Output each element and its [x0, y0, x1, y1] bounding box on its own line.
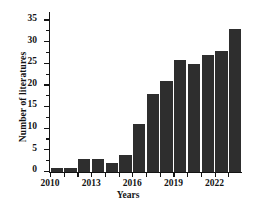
y-tick: 25 — [44, 63, 50, 64]
y-tick-label: 25 — [28, 56, 38, 66]
bar — [92, 159, 104, 172]
y-tick-label: 5 — [32, 143, 37, 153]
y-axis-title: Number of literatures — [18, 27, 28, 167]
y-tick: 10 — [44, 128, 50, 129]
x-axis-title: Years — [0, 190, 256, 200]
x-tick — [91, 172, 92, 177]
bar-chart: Number of literatures 05101520253035 201… — [0, 0, 256, 214]
x-tick — [173, 172, 174, 177]
x-tick — [64, 172, 65, 177]
x-tick-label: 2019 — [164, 178, 183, 188]
y-tick-label: 0 — [32, 164, 37, 174]
x-tick — [228, 172, 229, 177]
y-minor-tick — [46, 138, 50, 139]
y-minor-tick — [46, 30, 50, 31]
bar — [64, 168, 76, 172]
plot-area: 05101520253035 20102013201620192022 — [50, 12, 242, 172]
y-tick-label: 35 — [28, 13, 38, 23]
y-tick-label: 30 — [28, 35, 38, 45]
y-tick: 35 — [44, 19, 50, 20]
y-minor-tick — [46, 160, 50, 161]
x-tick-label: 2013 — [82, 178, 101, 188]
bar — [202, 55, 214, 172]
bar — [106, 163, 118, 172]
y-minor-tick — [46, 95, 50, 96]
bar — [147, 94, 159, 172]
x-tick — [201, 172, 202, 177]
y-minor-tick — [46, 52, 50, 53]
y-tick: 0 — [44, 171, 50, 172]
bar — [215, 51, 227, 172]
bar — [160, 81, 172, 172]
bar — [229, 29, 241, 172]
x-tick-label: 2022 — [205, 178, 224, 188]
x-tick — [119, 172, 120, 177]
y-minor-tick — [46, 74, 50, 75]
x-tick — [146, 172, 147, 177]
y-minor-tick — [46, 117, 50, 118]
y-tick-label: 20 — [28, 78, 38, 88]
y-tick: 20 — [44, 84, 50, 85]
bar — [119, 155, 131, 172]
x-tick — [50, 172, 51, 177]
x-tick — [160, 172, 161, 177]
bar — [78, 159, 90, 172]
y-tick-label: 15 — [28, 99, 38, 109]
bar — [174, 60, 186, 172]
bar — [133, 124, 145, 172]
x-tick — [77, 172, 78, 177]
x-tick-label: 2010 — [41, 178, 60, 188]
y-tick-label: 10 — [28, 121, 38, 131]
x-tick-label: 2016 — [123, 178, 142, 188]
x-tick — [132, 172, 133, 177]
x-tick — [105, 172, 106, 177]
y-tick: 30 — [44, 41, 50, 42]
x-tick — [187, 172, 188, 177]
y-tick: 15 — [44, 106, 50, 107]
y-tick: 5 — [44, 149, 50, 150]
bar — [51, 168, 63, 172]
x-tick — [215, 172, 216, 177]
bar — [188, 64, 200, 172]
